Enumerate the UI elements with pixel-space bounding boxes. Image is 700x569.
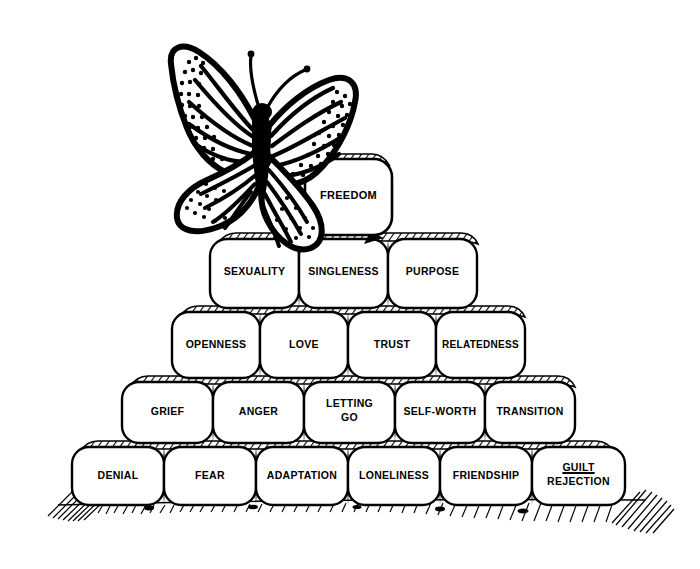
- label-openness: OPENNESS: [172, 339, 260, 351]
- label-letting: LETTING: [304, 398, 395, 410]
- block-label-guilt-rejection: GUILT REJECTION: [532, 447, 625, 505]
- label-relatedness: RELATEDNESS: [436, 339, 525, 350]
- block-label-adaptation: ADAPTATION: [256, 447, 348, 505]
- label-guilt: GUILT: [532, 462, 625, 474]
- label-anger: ANGER: [213, 406, 304, 418]
- block-label-self-worth: SELF-WORTH: [395, 382, 485, 443]
- block-label-anger: ANGER: [213, 382, 304, 443]
- label-purpose: PURPOSE: [388, 266, 477, 278]
- block-label-fear: FEAR: [164, 447, 256, 505]
- label-sexuality: SEXUALITY: [210, 266, 299, 278]
- block-label-grief: GRIEF: [122, 382, 213, 443]
- block-label-trust: TRUST: [348, 312, 436, 378]
- block-label-openness: OPENNESS: [172, 312, 260, 378]
- label-adaptation: ADAPTATION: [256, 470, 348, 482]
- block-label-sexuality: SEXUALITY: [210, 239, 299, 308]
- label-freedom: FREEDOM: [305, 189, 392, 201]
- antenna-club-right: [304, 66, 311, 73]
- block-label-singleness: SINGLENESS: [299, 239, 388, 308]
- label-denial: DENIAL: [72, 470, 164, 482]
- figure-canvas: FREEDOM SEXUALITY SINGLENESS PURPOSE OPE…: [0, 0, 700, 569]
- block-label-purpose: PURPOSE: [388, 239, 477, 308]
- block-label-love: LOVE: [260, 312, 348, 378]
- label-self-worth: SELF-WORTH: [395, 406, 485, 418]
- block-label-loneliness: LONELINESS: [348, 447, 440, 505]
- block-label-transition: TRANSITION: [485, 382, 575, 443]
- label-transition: TRANSITION: [485, 406, 575, 418]
- label-trust: TRUST: [348, 339, 436, 351]
- block-label-friendship: FRIENDSHIP: [440, 447, 532, 505]
- block-label-letting-go: LETTING GO: [304, 382, 395, 443]
- block-label-freedom: FREEDOM: [305, 159, 392, 235]
- label-go: GO: [304, 412, 395, 424]
- label-fear: FEAR: [164, 470, 256, 482]
- block-label-relatedness: RELATEDNESS: [436, 312, 525, 378]
- label-love: LOVE: [260, 339, 348, 351]
- label-rejection: REJECTION: [532, 476, 625, 488]
- label-singleness: SINGLENESS: [299, 266, 388, 278]
- label-grief: GRIEF: [122, 406, 213, 418]
- block-label-denial: DENIAL: [72, 447, 164, 505]
- label-friendship: FRIENDSHIP: [440, 470, 532, 482]
- label-loneliness: LONELINESS: [348, 470, 440, 482]
- antenna-club-left: [248, 51, 255, 58]
